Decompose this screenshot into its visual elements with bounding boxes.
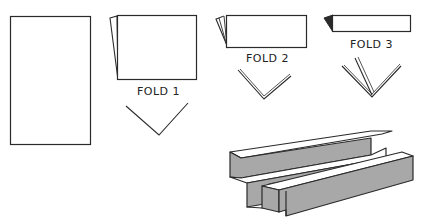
folded-channel-3d [230, 131, 413, 216]
fold1-profile [126, 103, 188, 135]
fold3-profile [342, 57, 401, 97]
flat-sheet [11, 17, 91, 145]
fold1-sheet [110, 16, 197, 81]
fold2-profile [238, 69, 291, 99]
fold1-label: FOLD 1 [137, 85, 180, 98]
fold3-sheet [324, 15, 411, 32]
fold3-label: FOLD 3 [350, 38, 393, 51]
fold2-label: FOLD 2 [246, 52, 289, 65]
fold2-sheet [216, 16, 307, 49]
folding-diagram [0, 0, 423, 224]
